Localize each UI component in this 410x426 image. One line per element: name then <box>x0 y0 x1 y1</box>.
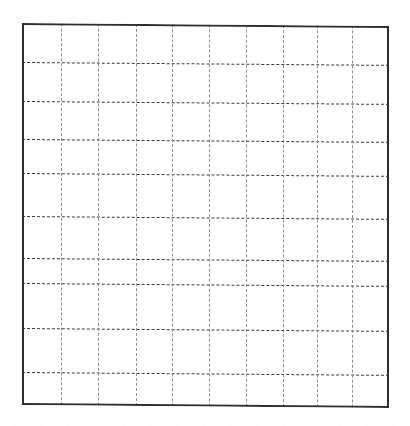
gridline-vertical-6 <box>246 25 247 407</box>
gridline-vertical-1 <box>61 23 62 405</box>
gridline-vertical-7 <box>283 25 284 407</box>
gridline-vertical-4 <box>172 24 173 406</box>
plot-border-right <box>387 26 389 408</box>
plot-border-left <box>22 23 24 405</box>
gridline-vertical-5 <box>209 24 210 406</box>
gridline-vertical-8 <box>317 25 318 407</box>
plot-frame <box>22 23 389 408</box>
gridline-vertical-9 <box>352 26 353 408</box>
gridline-vertical-2 <box>98 24 99 406</box>
gridline-vertical-3 <box>136 24 137 406</box>
figure-root <box>0 0 410 426</box>
